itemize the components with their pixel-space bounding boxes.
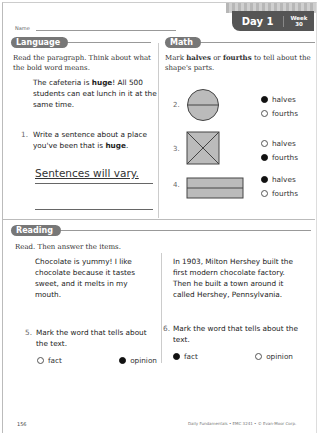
answer-text[interactable]: Sentences will vary.: [35, 167, 139, 179]
option-fact[interactable]: fact: [173, 352, 198, 361]
option-halves[interactable]: halves: [261, 175, 298, 184]
option-halves[interactable]: halves: [261, 139, 298, 148]
option-halves[interactable]: halves: [261, 95, 298, 104]
option-fourths[interactable]: fourths: [261, 189, 298, 198]
name-field: Name: [15, 25, 176, 31]
language-header: Language: [11, 37, 151, 48]
option-fourths[interactable]: fourths: [261, 109, 298, 118]
answer-line-1: [35, 183, 153, 184]
section-divider: [3, 219, 315, 220]
language-title: Language: [11, 37, 68, 48]
page-number: 156: [17, 421, 27, 427]
bubble-icon[interactable]: [261, 140, 268, 147]
name-line[interactable]: [36, 26, 176, 31]
question-5: 5. Mark the word that tells about the te…: [25, 327, 155, 349]
math-instructions: Mark halves or fourths to tell about the…: [165, 53, 315, 73]
worksheet-page: Name Day 1 Week 30 Language Read the par…: [2, 2, 317, 433]
bubble-icon[interactable]: [119, 357, 126, 364]
bubble-icon[interactable]: [255, 353, 262, 360]
reading-passage-left: Chocolate is yummy! I like chocolate bec…: [35, 256, 155, 300]
item-3-options: halves fourths: [261, 139, 298, 162]
bubble-icon[interactable]: [261, 110, 268, 117]
circle-halves-shape: [186, 88, 220, 122]
question-1: 1. Write a sentence about a place you've…: [21, 129, 156, 151]
math-header: Math: [165, 37, 315, 48]
question-6-options: fact opinion: [173, 352, 293, 361]
reading-title: Reading: [11, 225, 61, 236]
name-label: Name: [15, 25, 30, 31]
language-passage: The cafeteria is huge! All 500 students …: [33, 77, 158, 110]
option-fourths[interactable]: fourths: [261, 153, 298, 162]
day-label: Day 1: [232, 16, 284, 27]
bubble-icon[interactable]: [261, 154, 268, 161]
language-instructions: Read the paragraph. Think about what the…: [13, 53, 153, 73]
column-divider-reading: [161, 253, 162, 363]
option-fact[interactable]: fact: [37, 356, 62, 365]
reading-passage-right: In 1903, Milton Hershey built the first …: [173, 256, 303, 300]
bubble-icon[interactable]: [37, 357, 44, 364]
question-5-options: fact opinion: [37, 356, 157, 365]
reading-instructions: Read. Then answer the items.: [15, 242, 165, 252]
bubble-icon[interactable]: [173, 353, 180, 360]
item-2-options: halves fourths: [261, 95, 298, 118]
week-label: Week 30: [284, 15, 314, 27]
rectangle-halves-shape: [186, 177, 244, 199]
bubble-icon[interactable]: [261, 96, 268, 103]
bubble-icon[interactable]: [261, 190, 268, 197]
question-6: 6. Mark the word that tells about the te…: [163, 323, 303, 345]
square-fourths-shape: [186, 131, 220, 165]
math-title: Math: [165, 37, 201, 48]
day-week-tab: Day 1 Week 30: [232, 11, 314, 31]
column-divider: [158, 43, 159, 218]
option-opinion[interactable]: opinion: [119, 356, 157, 365]
option-opinion[interactable]: opinion: [255, 352, 293, 361]
bubble-icon[interactable]: [261, 176, 268, 183]
item-4-options: halves fourths: [261, 175, 298, 198]
answer-line-2: [35, 209, 153, 210]
reading-header: Reading: [11, 225, 311, 236]
footer-credit: Daily Fundamentals • EMC 3241 • © Evan-M…: [188, 421, 296, 426]
